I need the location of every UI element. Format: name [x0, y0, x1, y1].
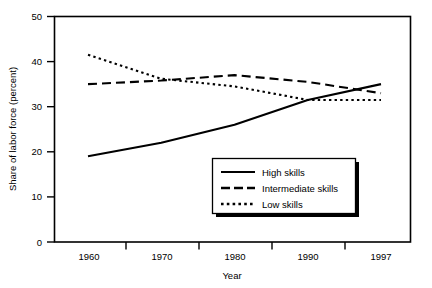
- y-tick-label-50: 50: [31, 11, 42, 22]
- y-tick-label-40: 40: [31, 56, 42, 67]
- x-tick-label-1990: 1990: [297, 251, 318, 262]
- legend-label-intermediate-skills: Intermediate skills: [262, 183, 338, 194]
- y-axis-ticks: [47, 17, 55, 243]
- legend-label-high-skills: High skills: [262, 167, 305, 178]
- chart-container: 50 40 30 20 10 0 Share of labor force (p…: [0, 0, 432, 288]
- line-chart: 50 40 30 20 10 0 Share of labor force (p…: [0, 0, 432, 288]
- legend: High skills Intermediate skills Low skil…: [213, 159, 360, 218]
- y-tick-label-30: 30: [31, 101, 42, 112]
- x-axis-ticks: [126, 242, 345, 250]
- y-tick-label-10: 10: [31, 191, 42, 202]
- x-tick-label-1980: 1980: [224, 251, 245, 262]
- x-tick-label-1970: 1970: [151, 251, 172, 262]
- x-tick-label-1997: 1997: [370, 251, 391, 262]
- x-axis-labels: 1960 1970 1980 1990 1997: [78, 251, 391, 262]
- x-tick-label-1960: 1960: [78, 251, 99, 262]
- y-axis-labels: 50 40 30 20 10 0: [31, 11, 42, 248]
- y-tick-label-20: 20: [31, 146, 42, 157]
- x-axis-title: Year: [222, 270, 241, 281]
- y-axis-title: Share of labor force (percent): [7, 67, 18, 191]
- legend-label-low-skills: Low skills: [262, 199, 303, 210]
- y-tick-label-0: 0: [37, 237, 42, 248]
